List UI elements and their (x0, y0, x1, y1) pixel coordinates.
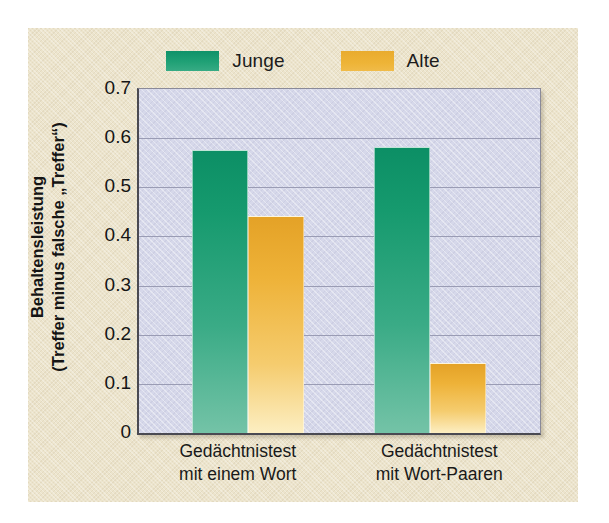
chart-legend: Junge Alte (28, 48, 578, 74)
legend-entry-alte: Alte (341, 50, 440, 72)
legend-label-junge: Junge (232, 50, 284, 72)
y-axis-tick-labels: 0.7 0.6 0.5 0.4 0.3 0.2 0.1 0 (71, 88, 131, 432)
x-axis-tick-labels: Gedächtnistest mit einem Wort Gedächtnis… (137, 440, 540, 494)
y-axis-title: Behaltensleistung (Treffer minus falsche… (24, 86, 72, 408)
legend-swatch-icon-alte (341, 51, 394, 71)
y-tick-0.6: 0.6 (105, 126, 131, 148)
legend-label-alte: Alte (407, 50, 440, 72)
plot-area (137, 88, 541, 435)
bar-junge-einem-wort (192, 150, 248, 433)
y-tick-0.5: 0.5 (105, 175, 131, 197)
bar-alte-einem-wort (248, 216, 304, 433)
bar-alte-wort-paaren (430, 363, 486, 433)
legend-entry-junge: Junge (166, 50, 284, 72)
y-axis-title-line1: Behaltensleistung (27, 176, 48, 318)
y-tick-0.3: 0.3 (105, 274, 131, 296)
y-tick-0.2: 0.2 (105, 323, 131, 345)
figure-root: Junge Alte Behaltensleistung (Treffer mi… (0, 0, 609, 523)
y-tick-0.4: 0.4 (105, 224, 131, 246)
x-tick-label-einem-wort: Gedächtnistest mit einem Wort (137, 440, 339, 494)
y-axis-title-line2: (Treffer minus falsche „Treffer“) (48, 122, 69, 371)
y-tick-0.7: 0.7 (105, 77, 131, 99)
legend-swatch-icon-junge (166, 51, 219, 71)
figure-plate: Junge Alte Behaltensleistung (Treffer mi… (28, 28, 578, 502)
bar-junge-wort-paaren (374, 147, 430, 434)
x-tick-label-wort-paaren: Gedächtnistest mit Wort-Paaren (339, 440, 541, 494)
bars-layer (139, 89, 540, 433)
y-tick-0.1: 0.1 (105, 372, 131, 394)
y-tick-0: 0 (120, 421, 131, 443)
